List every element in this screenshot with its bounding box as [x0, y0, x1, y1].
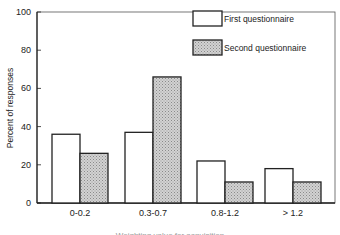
bars	[52, 77, 321, 203]
legend-swatch-first	[193, 11, 222, 26]
legend-label-first: First questionnaire	[224, 14, 294, 24]
y-tick-label: 100	[16, 7, 31, 17]
x-axis-label: Weighting value for acquisition	[116, 231, 224, 235]
y-tick-label: 80	[21, 45, 31, 55]
bar-chart: 020406080100 0-0.20.3-0.70.8-1.2> 1.2 Fi…	[0, 0, 340, 235]
x-tick-label: 0.3-0.7	[139, 208, 167, 218]
x-tick-label: > 1.2	[283, 208, 303, 218]
y-tick-label: 60	[21, 83, 31, 93]
y-tick-label: 0	[26, 198, 31, 208]
bar-second	[293, 182, 321, 203]
x-tick-label: 0-0.2	[70, 208, 91, 218]
legend-label-second: Second questionnaire	[224, 43, 307, 53]
y-axis-label: Percent of responses	[5, 68, 15, 148]
x-axis: 0-0.20.3-0.70.8-1.2> 1.2	[70, 208, 303, 218]
bar-second	[225, 182, 253, 203]
bar-first	[52, 134, 80, 203]
bar-first	[197, 161, 225, 203]
y-tick-label: 40	[21, 122, 31, 132]
y-tick-label: 20	[21, 160, 31, 170]
bar-first	[125, 132, 153, 203]
bar-second	[153, 77, 181, 203]
legend-swatch-second	[193, 40, 222, 55]
bar-first	[265, 169, 293, 203]
x-tick-label: 0.8-1.2	[211, 208, 239, 218]
legend: First questionnaireSecond questionnaire	[193, 11, 307, 55]
bar-second	[80, 153, 108, 203]
